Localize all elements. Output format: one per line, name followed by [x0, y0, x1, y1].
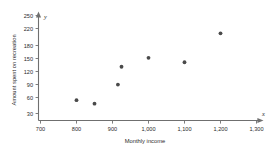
- y-axis-arrowhead: [36, 12, 41, 18]
- y-tick-label-90: 90: [27, 82, 33, 88]
- plot-canvas: 250 220 180 150 120 90 60 30 700 800 900…: [0, 0, 280, 151]
- y-tick-label-150: 150: [24, 56, 33, 62]
- x-tick-label-1200: 1,200: [214, 126, 228, 132]
- y-tick-label-60: 60: [27, 95, 33, 101]
- data-point: [120, 65, 124, 69]
- x-axis: [39, 118, 264, 123]
- data-point: [93, 102, 97, 106]
- y-tick-labels: 250 220 180 150 120 90 60 30: [24, 13, 33, 117]
- data-point: [183, 60, 187, 64]
- y-tick-label-30: 30: [27, 111, 33, 117]
- scatter-plot-figure: 250 220 180 150 120 90 60 30 700 800 900…: [0, 0, 280, 151]
- x-tick-labels: 700 800 900 1,000 1,100 1,200 1,300: [36, 126, 264, 132]
- x-tick-label-800: 800: [72, 126, 81, 132]
- y-tick-label-250: 250: [24, 13, 33, 19]
- y-axis-title: Amount spent on recreation: [11, 34, 17, 105]
- x-tick-label-1000: 1,000: [142, 126, 156, 132]
- x-tick-label-1100: 1,100: [178, 126, 192, 132]
- x-axis-arrowhead: [257, 118, 263, 123]
- x-tick-label-900: 900: [108, 126, 117, 132]
- y-axis-variable-label: y: [43, 13, 47, 20]
- x-tick-label-700: 700: [36, 126, 45, 132]
- data-point: [219, 31, 223, 35]
- y-axis: [36, 12, 41, 121]
- y-tick-label-220: 220: [24, 26, 33, 32]
- data-point: [147, 56, 151, 60]
- x-axis-variable-label: x: [261, 110, 265, 117]
- y-tick-label-180: 180: [24, 43, 33, 49]
- x-tick-label-1300: 1,300: [250, 126, 264, 132]
- x-axis-title: Monthly income: [125, 138, 166, 144]
- data-point: [116, 83, 120, 87]
- data-point: [75, 98, 79, 102]
- y-tick-label-120: 120: [24, 69, 33, 75]
- data-point-group: [75, 31, 223, 105]
